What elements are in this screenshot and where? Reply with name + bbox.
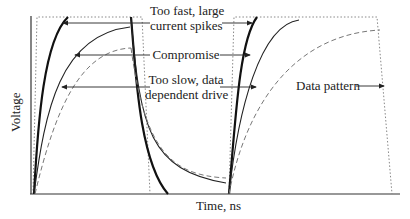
data-pattern-label: Data pattern: [296, 78, 360, 93]
compromise-curve: [34, 17, 299, 194]
too-fast-label: Too fast, large current spikes: [150, 3, 222, 33]
too-slow-line-1: Too slow, data: [145, 72, 227, 87]
compromise-label: Compromise: [150, 47, 222, 62]
data-pattern-curve: [33, 17, 392, 194]
data-pattern-line-1: Data pattern: [296, 78, 360, 93]
too-fast-line-2: current spikes: [150, 18, 222, 33]
too-slow-label: Too slow, data dependent drive: [145, 72, 227, 102]
too-fast-line-1: Too fast, large: [150, 3, 222, 18]
x-axis-label: Time, ns: [196, 198, 241, 213]
too-fast-curve: [34, 17, 257, 194]
too-slow-line-2: dependent drive: [145, 87, 227, 102]
compromise-line-1: Compromise: [150, 47, 222, 62]
y-axis-label: Voltage: [8, 93, 24, 132]
